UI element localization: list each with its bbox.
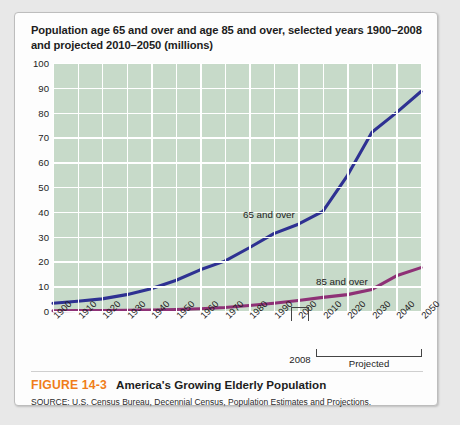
y-axis-tick: 40 <box>15 206 49 217</box>
gridline-horizontal <box>53 137 421 138</box>
gridline-vertical <box>151 63 152 311</box>
gridline-vertical <box>225 63 226 311</box>
gridline-vertical <box>347 63 348 311</box>
gridline-vertical <box>176 63 177 311</box>
series-label-65-and-over: 65 and over <box>243 209 295 220</box>
y-axis-tick: 20 <box>15 256 49 267</box>
gridline-vertical <box>78 63 79 311</box>
gridline-horizontal <box>53 162 421 163</box>
y-axis-tick: 80 <box>15 107 49 118</box>
series-label-85-and-over: 85 and over <box>316 276 368 287</box>
gridline-horizontal <box>53 88 421 89</box>
source-line: SOURCE: U.S. Census Bureau, Decennial Ce… <box>31 397 423 407</box>
gridline-vertical <box>274 63 275 311</box>
gridline-horizontal <box>53 63 421 64</box>
x-axis-labels: 1900191019201930194019501960197019801990… <box>53 313 421 353</box>
gridline-vertical <box>200 63 201 311</box>
gridline-horizontal <box>53 113 421 114</box>
y-axis-labels: 0102030405060708090100 <box>15 63 49 311</box>
figure-title: America's Growing Elderly Population <box>116 378 326 391</box>
plot-area <box>53 63 421 311</box>
y-axis-tick: 50 <box>15 182 49 193</box>
y-axis-tick: 0 <box>15 306 49 317</box>
y-axis-tick: 30 <box>15 231 49 242</box>
gridline-vertical <box>396 63 397 311</box>
gridline-horizontal <box>53 237 421 238</box>
gridline-horizontal <box>53 261 421 262</box>
y-axis-tick: 90 <box>15 82 49 93</box>
gridline-vertical <box>323 63 324 311</box>
projected-range-label: Projected <box>316 358 422 369</box>
series-line-65-and-over <box>53 92 421 304</box>
y-axis-tick: 10 <box>15 281 49 292</box>
year-marker-bracket <box>291 307 309 321</box>
y-axis-tick: 70 <box>15 132 49 143</box>
gridline-vertical <box>102 63 103 311</box>
caption-row: FIGURE 14-3 America's Growing Elderly Po… <box>31 378 423 392</box>
y-axis-tick: 60 <box>15 157 49 168</box>
caption-divider <box>31 371 423 372</box>
gridline-horizontal <box>53 212 421 213</box>
gridline-vertical <box>372 63 373 311</box>
chart-title: Population age 65 and over and age 85 an… <box>31 23 427 52</box>
gridline-vertical <box>53 63 54 311</box>
y-axis-tick: 100 <box>15 58 49 69</box>
gridline-vertical <box>249 63 250 311</box>
gridline-vertical <box>421 63 422 311</box>
projected-range-bracket <box>316 349 422 357</box>
gridline-vertical <box>127 63 128 311</box>
figure-number: FIGURE 14-3 <box>31 378 107 392</box>
gridline-vertical <box>298 63 299 311</box>
figure-card: Population age 65 and over and age 85 an… <box>14 12 438 406</box>
gridline-horizontal <box>53 187 421 188</box>
